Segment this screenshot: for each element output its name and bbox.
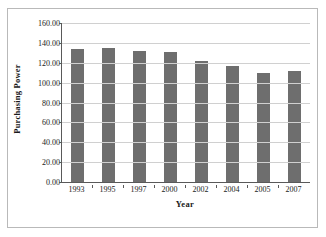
chart-figure: Purchasing Power 160.00140.00120.00100.0… [7, 8, 318, 228]
x-axis-tick-mark [123, 185, 124, 188]
gridline [62, 142, 310, 143]
y-axis-tick-label: 100.00 [38, 78, 60, 87]
y-axis-tick-label: 80.00 [42, 98, 60, 107]
x-axis-tick-mark [185, 185, 186, 188]
x-axis-tick-label: 2007 [278, 185, 309, 194]
gridline [62, 63, 310, 64]
y-axis-tick-mark [59, 103, 62, 104]
bar [195, 61, 208, 182]
x-axis-title: Year [61, 199, 309, 209]
y-axis-tick-mark [59, 182, 62, 183]
x-axis-tick-mark [92, 185, 93, 188]
gridline [62, 43, 310, 44]
x-axis-tick-label: 1997 [123, 185, 154, 194]
y-axis-tick-mark [59, 83, 62, 84]
bar [257, 73, 270, 182]
y-axis-tick-label: 40.00 [42, 138, 60, 147]
y-axis-tick-mark [59, 43, 62, 44]
gridline [62, 162, 310, 163]
x-axis-tick-label: 1993 [61, 185, 92, 194]
x-axis-tick-mark [278, 185, 279, 188]
x-axis-tick-label: 2000 [154, 185, 185, 194]
x-axis-tick-label: 2004 [216, 185, 247, 194]
y-axis-tick-label: 60.00 [42, 118, 60, 127]
plot-area [61, 23, 310, 183]
y-axis-tick-label: 120.00 [38, 58, 60, 67]
x-axis-tick-mark [216, 185, 217, 188]
y-axis-tick-label: 140.00 [38, 38, 60, 47]
gridline [62, 83, 310, 84]
bar [288, 71, 301, 182]
gridline [62, 103, 310, 104]
y-axis-tick-mark [59, 63, 62, 64]
y-axis-tick-label: 20.00 [42, 158, 60, 167]
y-axis-tick-mark [59, 162, 62, 163]
gridline [62, 122, 310, 123]
x-axis-tick-mark [247, 185, 248, 188]
x-axis-tick-label: 1995 [92, 185, 123, 194]
x-axis-tick-label: 2002 [185, 185, 216, 194]
y-axis-tick-label: 0.00 [46, 178, 60, 187]
gridline [62, 23, 310, 24]
y-axis-tick-mark [59, 23, 62, 24]
x-axis-tick-labels: 19931995199720002002200420052007 [61, 185, 309, 194]
y-axis-tick-mark [59, 142, 62, 143]
y-axis-title: Purchasing Power [12, 64, 22, 133]
x-axis-tick-mark [154, 185, 155, 188]
y-axis-tick-mark [59, 122, 62, 123]
x-axis-tick-label: 2005 [247, 185, 278, 194]
y-axis-tick-label: 160.00 [38, 19, 60, 28]
y-axis-tick-labels: 160.00140.00120.00100.0080.0060.0040.002… [22, 9, 60, 190]
